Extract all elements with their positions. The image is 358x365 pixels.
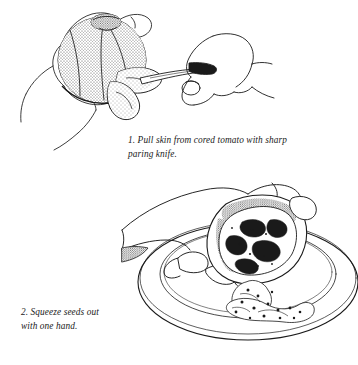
right-hand-back-upper — [213, 34, 253, 64]
figure-1-drawing — [0, 0, 260, 140]
tomato-core-hole — [91, 14, 121, 30]
figure-1-caption: 1. Pull skin from cored tomato with shar… — [128, 134, 350, 161]
right-wrist-lower-line — [252, 87, 274, 98]
right-hand-little-finger — [234, 87, 252, 93]
wrist-cuff-shadow — [122, 247, 148, 263]
figure-1-pull-skin — [0, 0, 260, 140]
knife-handle — [189, 63, 216, 75]
left-hand-lower-contour — [78, 110, 96, 133]
halved-tomato-group — [202, 188, 316, 284]
figure-2-caption: 2. Squeeze seeds out with one hand. — [21, 306, 171, 333]
tomato-skin-strips — [100, 60, 172, 126]
right-wrist-upper-line — [252, 63, 272, 65]
right-hand-middle-finger — [194, 94, 214, 105]
illustration-page: 1. Pull skin from cored tomato with shar… — [0, 0, 358, 365]
left-wrist-upper-line — [26, 66, 53, 94]
right-hand-back-lower — [236, 64, 252, 87]
left-forearm-outer-line — [21, 94, 26, 122]
right-hand-thumbnail — [186, 81, 199, 84]
wrist-left-edge — [122, 230, 124, 250]
right-hand-ring-finger — [214, 92, 234, 96]
left-forearm-inner-line — [54, 133, 78, 150]
